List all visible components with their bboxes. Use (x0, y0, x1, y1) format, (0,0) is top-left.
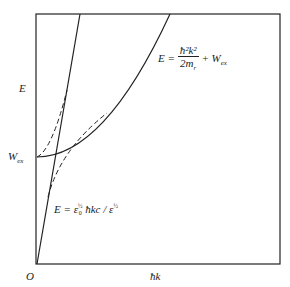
parabola-denominator: 2mr (178, 57, 199, 74)
parabola-numerator: ħ²k² (178, 44, 199, 57)
origin-label: O (26, 270, 34, 282)
x-axis-label: ħk (150, 270, 160, 282)
eps-sup: ½ (113, 203, 118, 209)
eps0-sub: 0 (78, 210, 83, 217)
photon-line (37, 14, 80, 264)
parabola-equation: E = ħ²k² 2mr + Wex (158, 44, 227, 74)
parabola-lhs: E = (158, 52, 175, 64)
diagram-canvas (0, 0, 290, 287)
exciton-parabola (37, 14, 170, 157)
lower-polariton-branch (48, 113, 107, 197)
w-ex-sub: ex (17, 157, 23, 165)
denominator-sub: r (194, 64, 197, 72)
w-ex-text: W (8, 150, 17, 162)
parabola-plus-w: + W (201, 52, 220, 64)
upper-polariton-branch (37, 90, 67, 157)
denominator-text: 2m (180, 57, 193, 69)
w-ex-label: Wex (8, 150, 23, 165)
eps0-sup: ½ (78, 203, 83, 210)
line-equation: E = ε½0 ħkc / ε½ (54, 203, 118, 217)
line-lhs: E = ε (54, 203, 78, 215)
line-middle: ħkc / ε (85, 203, 113, 215)
parabola-plus-sub: ex (221, 59, 227, 67)
parabola-fraction: ħ²k² 2mr (178, 44, 199, 74)
eps0-scripts: ½0 (78, 203, 83, 217)
y-axis-label: E (19, 82, 26, 94)
